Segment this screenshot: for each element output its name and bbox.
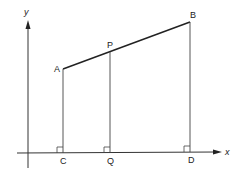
point-label-c: C <box>60 156 67 166</box>
point-label-p: P <box>107 40 113 50</box>
point-label-d: D <box>188 155 195 165</box>
x-axis <box>17 152 216 153</box>
x-axis-arrow-icon <box>213 150 222 155</box>
point-label-b: B <box>190 10 196 20</box>
diagram-canvas: y x A P B C Q D <box>0 0 236 175</box>
point-label-q: Q <box>107 156 114 166</box>
right-angle-mark-c <box>57 147 63 153</box>
right-angle-mark-d <box>184 146 190 152</box>
point-label-a: A <box>54 64 60 74</box>
x-axis-label: x <box>224 147 230 157</box>
segment-ab <box>63 22 190 69</box>
y-axis-arrow-icon <box>26 20 31 29</box>
y-axis-label: y <box>23 7 29 17</box>
